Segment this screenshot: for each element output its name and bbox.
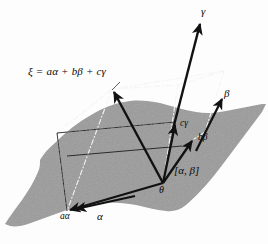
alpha-beta-plane (5, 101, 266, 227)
alpha-axis-label: α (97, 211, 103, 222)
vector-decomposition-figure: ξ = aα + bβ + cγ γ β α cγ bβ aα θ [α, β] (0, 0, 268, 244)
diagram-canvas (0, 0, 268, 244)
equation-label: ξ = aα + bβ + cγ (28, 66, 106, 77)
c-gamma-label: cγ (180, 119, 188, 129)
beta-axis-label: β (224, 88, 229, 99)
plane-label: [α, β] (174, 165, 199, 176)
b-beta-label: bβ (198, 133, 207, 143)
origin-label: θ (159, 185, 164, 195)
a-alpha-label: aα (60, 212, 70, 222)
gamma-axis-label: γ (201, 6, 205, 17)
